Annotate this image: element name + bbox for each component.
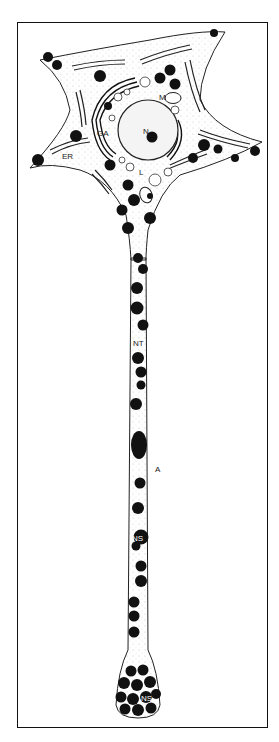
label-ga: GA xyxy=(97,129,109,138)
label-n: N xyxy=(143,127,149,136)
label-ns-terminal: NS xyxy=(141,694,152,703)
label-nt: NT xyxy=(133,339,144,348)
neuron-diagram: M N GA ER L NT A NS NS xyxy=(0,0,279,742)
label-m: M xyxy=(159,93,166,102)
label-a: A xyxy=(155,465,161,474)
label-er: ER xyxy=(62,152,73,161)
label-ns-axon: NS xyxy=(132,534,143,543)
label-l: L xyxy=(139,168,144,177)
